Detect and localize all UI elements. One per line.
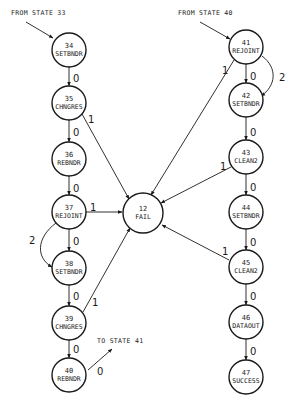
edge-45-12 xyxy=(162,225,229,260)
edge-40-41 xyxy=(200,22,230,39)
state-name: REBNDR xyxy=(57,375,81,383)
label-34-35: 0 xyxy=(73,73,79,84)
state-number: 37 xyxy=(65,204,73,212)
state-node-37: 37REJOINT xyxy=(52,195,86,229)
state-name: CLEAN2 xyxy=(234,267,258,275)
state-number: 36 xyxy=(65,151,73,159)
state-name: SETBNDR xyxy=(55,268,82,276)
label-44-45: 0 xyxy=(250,237,256,248)
label-41-12: 1 xyxy=(222,65,228,76)
state-nodes: 34SETBNDR35CHNGRES36REBNDR37REJOINT38SET… xyxy=(52,30,263,394)
edge-39-12 xyxy=(83,228,130,312)
state-node-40: 40REBNDR xyxy=(52,358,86,392)
state-name: SETBNDR xyxy=(55,50,82,58)
label-37-38: 0 xyxy=(73,236,79,247)
state-node-42: 42SETBNDR xyxy=(229,83,263,117)
label-45-46: 0 xyxy=(250,291,256,302)
state-node-39: 39CHNGRES xyxy=(52,306,86,340)
state-node-45: 45CLEAN2 xyxy=(229,250,263,284)
label-38-39: 0 xyxy=(73,291,79,302)
state-number: 41 xyxy=(242,39,250,47)
state-node-38: 38SETBNDR xyxy=(52,251,86,285)
state-name: SETBNDR xyxy=(232,212,259,220)
edge-35-12 xyxy=(82,114,129,199)
label-37-12: 1 xyxy=(90,202,96,213)
label-43-12: 1 xyxy=(220,161,226,172)
state-number: 42 xyxy=(242,92,250,100)
label-39-12: 1 xyxy=(92,297,98,308)
state-node-41: 41REJOINT xyxy=(229,30,263,64)
edge-33-34 xyxy=(26,22,53,38)
from-state-40-label: FROM STATE 40 xyxy=(178,9,233,17)
state-number: 47 xyxy=(242,369,250,377)
label-45-12: 1 xyxy=(222,246,228,257)
state-number: 34 xyxy=(65,42,73,50)
state-diagram: FROM STATE 33 FROM STATE 40 TO STATE 41 xyxy=(0,0,294,406)
label-40-41-ext: 0 xyxy=(97,366,103,377)
state-name: CHNGRES xyxy=(55,103,82,111)
state-number: 12 xyxy=(139,205,147,213)
state-number: 46 xyxy=(242,314,250,322)
state-number: 43 xyxy=(242,149,250,157)
label-43-44: 0 xyxy=(250,182,256,193)
state-node-46: 46DATAOUT xyxy=(229,305,263,339)
state-number: 40 xyxy=(65,367,73,375)
state-node-44: 44SETBNDR xyxy=(229,195,263,229)
edge-41-12 xyxy=(151,60,234,195)
state-number: 45 xyxy=(242,259,250,267)
edge-43-12 xyxy=(161,167,231,203)
label-36-37: 0 xyxy=(73,183,79,194)
label-42-43: 0 xyxy=(250,127,256,138)
label-35-36: 0 xyxy=(73,127,79,138)
state-node-35: 35CHNGRES xyxy=(52,86,86,120)
state-name: SUCCESS xyxy=(232,377,259,385)
state-name: REJOINT xyxy=(232,47,259,55)
label-39-40: 0 xyxy=(73,344,79,355)
state-name: CLEAN2 xyxy=(234,157,258,165)
label-41-42-curve: 2 xyxy=(279,72,285,83)
label-35-12: 1 xyxy=(88,114,94,125)
state-number: 44 xyxy=(242,204,250,212)
to-state-41-label: TO STATE 41 xyxy=(97,337,143,345)
state-name: DATAOUT xyxy=(232,322,259,330)
label-46-47: 0 xyxy=(250,346,256,357)
state-number: 38 xyxy=(65,260,73,268)
label-41-42: 0 xyxy=(250,71,256,82)
state-name: SETBNDR xyxy=(232,100,259,108)
label-37-38-curve: 2 xyxy=(29,235,35,246)
state-node-47: 47SUCCESS xyxy=(229,360,263,394)
state-node-36: 36REBNDR xyxy=(52,142,86,176)
state-node-12: 12FAIL xyxy=(123,193,163,233)
state-number: 39 xyxy=(65,315,73,323)
from-state-33-label: FROM STATE 33 xyxy=(11,9,66,17)
state-number: 35 xyxy=(65,95,73,103)
state-name: REBNDR xyxy=(57,159,81,167)
state-name: REJOINT xyxy=(55,212,82,220)
state-name: CHNGRES xyxy=(55,323,82,331)
state-node-34: 34SETBNDR xyxy=(52,33,86,67)
state-name: FAIL xyxy=(135,213,151,221)
state-node-43: 43CLEAN2 xyxy=(229,140,263,174)
edge-41-42-curve xyxy=(261,56,273,96)
